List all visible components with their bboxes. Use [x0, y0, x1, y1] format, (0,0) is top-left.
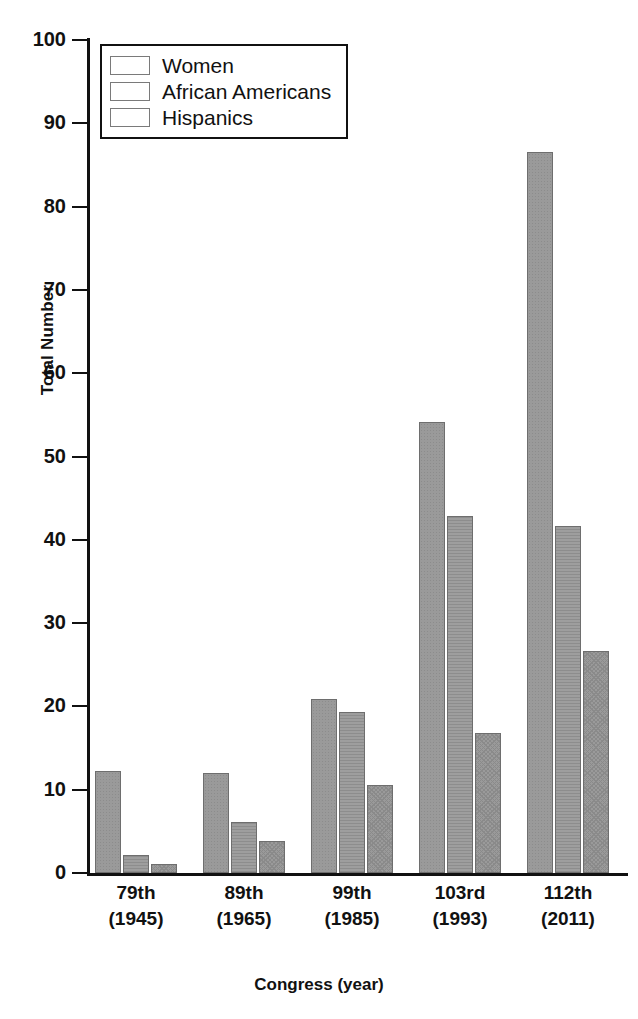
bar — [259, 841, 285, 873]
bar — [95, 771, 121, 873]
y-axis-tick — [72, 789, 87, 791]
x-axis-title: Congress (year) — [0, 975, 638, 995]
category-line-2: (2011) — [508, 906, 628, 932]
bar — [311, 699, 337, 873]
x-axis-category-label: 99th(1985) — [292, 880, 412, 931]
y-axis-tick-label: 80 — [14, 196, 66, 216]
y-axis-tick — [72, 872, 87, 874]
bar-group — [419, 40, 501, 873]
bar-group — [203, 40, 285, 873]
category-line-1: 112th — [544, 882, 593, 903]
bar — [475, 733, 501, 873]
y-axis-tick — [72, 622, 87, 624]
bar — [419, 422, 445, 873]
category-line-2: (1993) — [400, 906, 520, 932]
bar-group — [311, 40, 393, 873]
bar-series-container — [88, 40, 628, 873]
bar — [367, 785, 393, 873]
y-axis-tick-label: 40 — [14, 529, 66, 549]
legend-label-african-americans: African Americans — [162, 81, 331, 102]
category-line-1: 79th — [116, 882, 155, 903]
bar-group — [95, 40, 177, 873]
legend-item-women: Women — [110, 52, 338, 78]
y-axis-tick-label: 90 — [14, 112, 66, 132]
y-axis-title: Total Number — [38, 230, 58, 450]
scan-artifact-top — [150, 0, 450, 10]
y-axis-tick — [72, 289, 87, 291]
legend-swatch-women-icon — [110, 56, 150, 75]
legend-swatch-hispanics-icon — [110, 108, 150, 127]
category-line-1: 103rd — [435, 882, 486, 903]
bar — [123, 855, 149, 873]
bar — [555, 526, 581, 873]
bar — [151, 864, 177, 873]
bar — [447, 516, 473, 873]
x-axis-category-label: 103rd(1993) — [400, 880, 520, 931]
y-axis-tick-label: 30 — [14, 612, 66, 632]
legend-swatch-african-americans-icon — [110, 82, 150, 101]
legend-item-hispanics: Hispanics — [110, 104, 338, 130]
y-axis-tick — [72, 372, 87, 374]
y-axis-tick — [72, 206, 87, 208]
bar — [339, 712, 365, 873]
legend-item-african-americans: African Americans — [110, 78, 338, 104]
x-axis-category-label: 112th(2011) — [508, 880, 628, 931]
y-axis-tick-label: 20 — [14, 695, 66, 715]
bar-chart: 1009080706050403020100 Total Number 79th… — [0, 0, 638, 1019]
x-axis-category-label: 79th(1945) — [76, 880, 196, 931]
y-axis-tick — [72, 456, 87, 458]
x-axis-line — [87, 873, 628, 876]
category-line-2: (1945) — [76, 906, 196, 932]
y-axis-tick — [72, 539, 87, 541]
y-axis-tick-label: 10 — [14, 779, 66, 799]
category-line-1: 89th — [224, 882, 263, 903]
category-line-2: (1965) — [184, 906, 304, 932]
y-axis-tick-label: 0 — [14, 862, 66, 882]
bar — [583, 651, 609, 873]
category-line-2: (1985) — [292, 906, 412, 932]
legend-label-hispanics: Hispanics — [162, 107, 253, 128]
bar — [203, 773, 229, 873]
bar — [231, 822, 257, 873]
legend-label-women: Women — [162, 55, 234, 76]
y-axis-tick-label: 100 — [14, 29, 66, 49]
x-axis-category-label: 89th(1965) — [184, 880, 304, 931]
category-line-1: 99th — [332, 882, 371, 903]
y-axis-tick — [72, 39, 87, 41]
bar-group — [527, 40, 609, 873]
chart-legend: Women African Americans Hispanics — [100, 44, 348, 139]
y-axis-tick — [72, 122, 87, 124]
x-axis-category-labels: 79th(1945)89th(1965)99th(1985)103rd(1993… — [88, 880, 628, 950]
bar — [527, 152, 553, 873]
y-axis-tick — [72, 705, 87, 707]
